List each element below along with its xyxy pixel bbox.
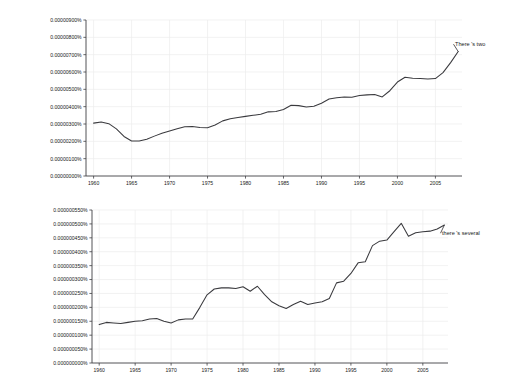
- y-axis-tick-label: 0.000000150%: [53, 318, 88, 324]
- x-axis-tick-label: 1960: [94, 367, 105, 373]
- y-axis-tick-label: 0.00000500%: [50, 86, 82, 92]
- x-axis-tick-label: 1985: [278, 180, 289, 186]
- x-axis-tick-label: 2000: [381, 367, 392, 373]
- x-axis-tick-label: 1990: [309, 367, 320, 373]
- y-axis-tick-label: 0.00000200%: [50, 138, 82, 144]
- y-axis-tick-label: 0.000000050%: [53, 346, 88, 352]
- x-axis-tick-label: 1995: [345, 367, 356, 373]
- x-axis-tick-label: 2005: [430, 180, 441, 186]
- x-axis-tick-label: 1975: [201, 367, 212, 373]
- x-axis-tick-label: 1975: [202, 180, 213, 186]
- y-axis-tick-label: 0.000000450%: [53, 235, 88, 241]
- y-axis-tick-label: 0.000000250%: [53, 290, 88, 296]
- x-axis-tick-label: 1970: [165, 367, 176, 373]
- x-axis-tick-label: 1960: [88, 180, 99, 186]
- data-series-line: [99, 223, 444, 324]
- data-series-line: [94, 52, 459, 141]
- series-label: There 's two: [455, 41, 485, 47]
- y-axis-tick-label: 0.00000800%: [50, 34, 82, 40]
- chart-bottom-canvas: 0.000000000%0.000000050%0.000000100%0.00…: [0, 195, 521, 388]
- x-axis-tick-label: 1965: [126, 180, 137, 186]
- y-axis-tick-label: 0.00000000%: [50, 173, 82, 179]
- x-axis-tick-label: 1965: [129, 367, 140, 373]
- chart-top: 0.00000000%0.00000100%0.00000200%0.00000…: [0, 0, 521, 195]
- x-axis-tick-label: 1980: [237, 367, 248, 373]
- y-axis-tick-label: 0.000000100%: [53, 332, 88, 338]
- y-axis-tick-label: 0.000000200%: [53, 304, 88, 310]
- x-axis-tick-label: 1990: [316, 180, 327, 186]
- y-axis-tick-label: 0.00000400%: [50, 104, 82, 110]
- x-axis-tick-label: 1980: [240, 180, 251, 186]
- y-axis-tick-label: 0.000000500%: [53, 221, 88, 227]
- x-axis-tick-label: 1970: [164, 180, 175, 186]
- y-axis-tick-label: 0.000000350%: [53, 263, 88, 269]
- chart-top-canvas: 0.00000000%0.00000100%0.00000200%0.00000…: [0, 0, 521, 195]
- x-axis-tick-label: 1985: [273, 367, 284, 373]
- y-axis-tick-label: 0.000000300%: [53, 276, 88, 282]
- y-axis-tick-label: 0.00000300%: [50, 121, 82, 127]
- x-axis-tick-label: 1995: [354, 180, 365, 186]
- y-axis-tick-label: 0.00000100%: [50, 156, 82, 162]
- y-axis-tick-label: 0.00000700%: [50, 52, 82, 58]
- y-axis-tick-label: 0.00000600%: [50, 69, 82, 75]
- x-axis-tick-label: 2000: [392, 180, 403, 186]
- ngram-chart-page: 0.00000000%0.00000100%0.00000200%0.00000…: [0, 0, 521, 388]
- y-axis-tick-label: 0.000000550%: [53, 207, 88, 213]
- y-axis-tick-label: 0.000000400%: [53, 249, 88, 255]
- y-axis-tick-label: 0.000000000%: [53, 360, 88, 366]
- series-label: there 's several: [442, 230, 480, 236]
- x-axis-tick-label: 2005: [417, 367, 428, 373]
- chart-bottom: 0.000000000%0.000000050%0.000000100%0.00…: [0, 195, 521, 388]
- y-axis-tick-label: 0.00000900%: [50, 17, 82, 23]
